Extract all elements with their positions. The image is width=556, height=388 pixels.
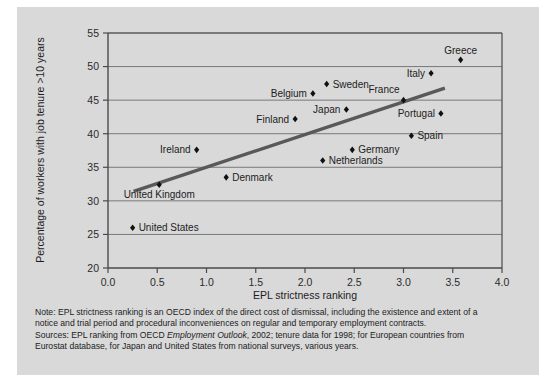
data-point-marker	[310, 90, 315, 97]
x-tick-label: 0.5	[150, 276, 165, 288]
data-point-label: Portugal	[398, 108, 435, 119]
data-point-marker	[324, 81, 329, 88]
y-tick-label: 55	[87, 27, 99, 39]
data-point-marker	[344, 106, 349, 113]
data-point-label: Italy	[407, 68, 425, 79]
data-point-marker	[428, 70, 433, 77]
x-tick-label: 3.0	[396, 276, 411, 288]
data-point-label: Japan	[313, 104, 340, 115]
chart-plot-region: 2025303540455055 0.00.51.01.52.02.53.03.…	[17, 7, 539, 307]
data-point-label: Ireland	[160, 144, 191, 155]
data-point-marker	[293, 116, 298, 123]
x-tick-label: 3.5	[445, 276, 460, 288]
data-point-label: Denmark	[232, 172, 274, 183]
data-point-label: Sweden	[333, 79, 369, 90]
sources-line-1: Sources: EPL ranking from OECD Employmen…	[35, 330, 525, 341]
data-point-marker	[194, 147, 199, 154]
data-point-marker	[224, 174, 229, 181]
data-point-marker	[320, 157, 325, 164]
y-tick-label: 50	[87, 60, 99, 72]
data-point-label: Belgium	[271, 88, 307, 99]
sources-line-2: Eurostat database, for Japan and United …	[35, 341, 525, 352]
x-tick-label: 1.5	[248, 276, 263, 288]
y-tick-label: 20	[87, 262, 99, 274]
data-point-marker	[458, 57, 463, 64]
data-point-label: Germany	[358, 144, 399, 155]
data-point-label: Greece	[444, 45, 477, 56]
y-tick-label: 25	[87, 228, 99, 240]
data-point-marker	[350, 147, 355, 154]
sources-prefix: Sources: EPL ranking from OECD	[35, 330, 167, 340]
y-tick-label: 30	[87, 195, 99, 207]
data-point-label: United States	[139, 222, 199, 233]
trend-line	[134, 88, 445, 191]
x-tick-label: 0.0	[101, 276, 116, 288]
data-point-label: France	[368, 84, 400, 95]
sources-suffix: , 2002; tenure data for 1998; for Europe…	[247, 330, 464, 340]
data-point-label: Netherlands	[329, 155, 383, 166]
data-point-marker	[438, 110, 443, 117]
y-tick-label: 35	[87, 161, 99, 173]
x-axis-title: EPL strictness ranking	[253, 289, 357, 301]
x-tick-label: 2.5	[347, 276, 362, 288]
data-point-label: United Kingdom	[124, 189, 195, 200]
y-axis-title: Percentage of workers with job tenure >1…	[34, 37, 46, 263]
y-tick-label: 40	[87, 128, 99, 140]
data-point-marker	[130, 224, 135, 231]
figure-panel: 2025303540455055 0.00.51.01.52.02.53.03.…	[17, 7, 539, 375]
x-tick-label: 4.0	[495, 276, 510, 288]
scatter-plot-svg: 2025303540455055 0.00.51.01.52.02.53.03.…	[17, 7, 539, 307]
y-tick-label: 45	[87, 94, 99, 106]
note-line-1: Note: EPL strictness ranking is an OECD …	[35, 307, 525, 318]
data-point-label: Spain	[417, 130, 443, 141]
x-tick-label: 1.0	[199, 276, 214, 288]
x-axis-ticks-group: 0.00.51.01.52.02.53.03.54.0	[101, 268, 510, 288]
figure-notes: Note: EPL strictness ranking is an OECD …	[35, 307, 525, 352]
note-line-2: notice and trial period and procedural i…	[35, 318, 525, 329]
data-point-label: Finland	[256, 114, 289, 125]
sources-publication: Employment Outlook	[167, 330, 247, 340]
x-tick-label: 2.0	[298, 276, 313, 288]
y-axis-ticks-group: 2025303540455055	[87, 27, 108, 274]
data-point-labels-group: United StatesUnited KingdomIrelandDenmar…	[124, 45, 478, 233]
